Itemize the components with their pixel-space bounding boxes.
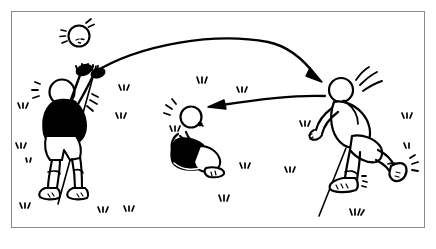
grass-tuft bbox=[404, 143, 409, 148]
grass-tuft bbox=[300, 121, 310, 126]
grass-tuft bbox=[16, 143, 26, 148]
grass-tuft bbox=[26, 158, 31, 162]
player-right-motion-marks bbox=[356, 67, 382, 91]
grass-tuft bbox=[350, 209, 364, 215]
illustration-artwork bbox=[0, 0, 436, 249]
scene-svg bbox=[0, 0, 436, 249]
player-center-motion-marks bbox=[164, 99, 176, 115]
player-left bbox=[32, 62, 106, 199]
grass-tuft bbox=[170, 126, 180, 131]
grass-tuft bbox=[124, 206, 134, 211]
grass-tuft bbox=[116, 113, 126, 118]
grass-tuft bbox=[18, 103, 28, 108]
illustration-canvas bbox=[0, 0, 436, 249]
player-center bbox=[164, 99, 224, 177]
grass-tuft bbox=[285, 167, 295, 172]
grass-tuft bbox=[402, 113, 412, 118]
arrow-pass bbox=[208, 96, 325, 109]
grass-tuft bbox=[197, 77, 207, 83]
arrow-throw bbox=[93, 39, 322, 82]
grass-tuft bbox=[219, 195, 229, 201]
grass-tuft bbox=[98, 207, 108, 212]
soccer-ball bbox=[60, 19, 94, 47]
grass-tuft bbox=[237, 87, 247, 92]
grass-tuft bbox=[240, 163, 250, 168]
grass-tuft bbox=[119, 85, 129, 90]
grass-tuft bbox=[20, 203, 30, 208]
player-right bbox=[309, 67, 418, 192]
